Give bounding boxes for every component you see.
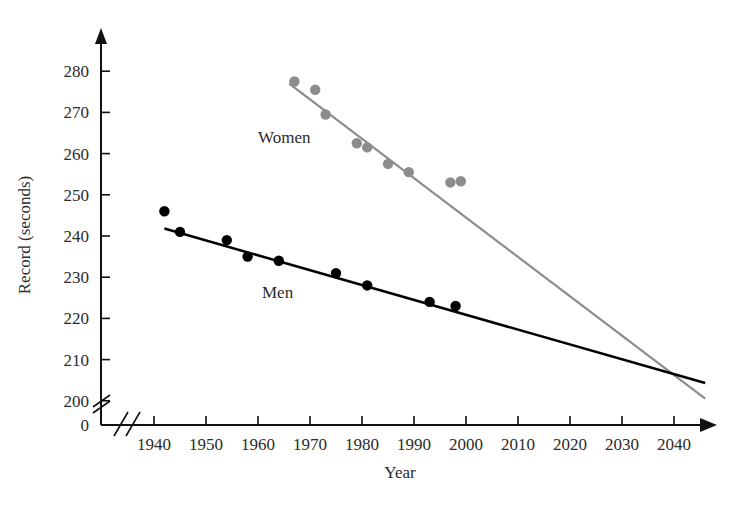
x-axis-tick-label: 1940 bbox=[137, 435, 171, 454]
data-point-men bbox=[362, 280, 372, 290]
data-point-men bbox=[450, 301, 460, 311]
data-point-women bbox=[383, 159, 393, 169]
x-axis-tick-label: 1970 bbox=[293, 435, 327, 454]
data-point-women bbox=[320, 109, 330, 119]
data-point-men bbox=[242, 251, 252, 261]
y-axis-tick-label: 230 bbox=[64, 268, 90, 287]
y-axis-zero-label: 0 bbox=[81, 416, 90, 435]
data-point-women bbox=[362, 142, 372, 152]
data-point-men bbox=[222, 235, 232, 245]
x-axis-tick-label: 2020 bbox=[553, 435, 587, 454]
y-axis-tick-label: 240 bbox=[64, 227, 90, 246]
data-point-men bbox=[274, 256, 284, 266]
trendline-women bbox=[289, 84, 705, 399]
data-point-women bbox=[445, 177, 455, 187]
data-point-men bbox=[159, 206, 169, 216]
data-point-women bbox=[352, 138, 362, 148]
data-point-women bbox=[456, 176, 466, 186]
series-label-men: Men bbox=[262, 283, 294, 302]
x-axis-tick-label: 2000 bbox=[449, 435, 483, 454]
trendline-men bbox=[164, 229, 705, 384]
x-axis-tick-label: 2040 bbox=[657, 435, 691, 454]
data-point-men bbox=[331, 268, 341, 278]
chart-canvas: 2002102202302402502602702800194019501960… bbox=[0, 0, 751, 515]
data-point-women bbox=[289, 76, 299, 86]
data-point-men bbox=[175, 227, 185, 237]
data-point-women bbox=[310, 85, 320, 95]
data-point-men bbox=[424, 297, 434, 307]
y-axis-tick-label: 270 bbox=[64, 103, 90, 122]
x-axis-tick-label: 1960 bbox=[241, 435, 275, 454]
series-label-women: Women bbox=[258, 128, 311, 147]
x-axis-arrow-icon bbox=[700, 418, 717, 432]
y-axis-tick-label: 250 bbox=[64, 186, 90, 205]
y-axis-tick-label: 260 bbox=[64, 145, 90, 164]
x-axis-title: Year bbox=[384, 463, 416, 482]
x-axis-tick-label: 1950 bbox=[189, 435, 223, 454]
x-axis-tick-label: 2030 bbox=[605, 435, 639, 454]
x-axis-tick-label: 1980 bbox=[345, 435, 379, 454]
y-axis-tick-label: 210 bbox=[64, 351, 90, 370]
y-axis-tick-label: 280 bbox=[64, 62, 90, 81]
x-axis-tick-label: 1990 bbox=[397, 435, 431, 454]
x-axis-tick-label: 2010 bbox=[501, 435, 535, 454]
y-axis-title: Record (seconds) bbox=[15, 176, 34, 295]
y-axis-tick-label: 200 bbox=[64, 392, 90, 411]
data-point-women bbox=[404, 167, 414, 177]
y-axis-tick-label: 220 bbox=[64, 309, 90, 328]
y-axis-arrow-icon bbox=[95, 28, 107, 44]
record-times-scatter-chart: 2002102202302402502602702800194019501960… bbox=[0, 0, 751, 515]
